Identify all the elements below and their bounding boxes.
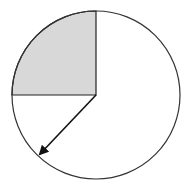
radius-arrow [40, 95, 96, 154]
shaded-quarter-sector [12, 11, 96, 95]
circle-diagram [0, 0, 186, 185]
